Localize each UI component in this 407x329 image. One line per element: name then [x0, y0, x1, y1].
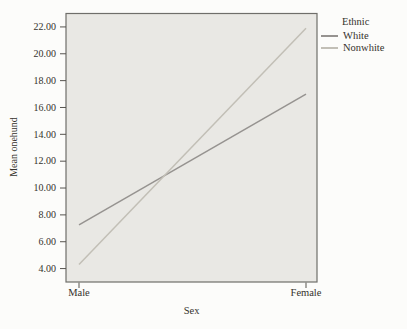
y-tick-label: 22.00: [34, 21, 57, 32]
y-tick-label: 12.00: [34, 155, 57, 166]
chart-figure: 4.006.008.0010.0012.0014.0016.0018.0020.…: [0, 0, 407, 329]
legend-label-nonwhite: Nonwhite: [343, 42, 384, 54]
y-tick-label: 16.00: [34, 102, 57, 113]
y-tick-label: 8.00: [39, 209, 57, 220]
y-tick-label: 14.00: [34, 129, 57, 140]
y-tick-label: 6.00: [39, 236, 57, 247]
x-axis-title: Sex: [141, 304, 242, 317]
x-category-label-male: Male: [53, 287, 105, 299]
legend: Ethnic White Nonwhite: [320, 15, 384, 54]
legend-item-nonwhite: Nonwhite: [320, 42, 384, 54]
y-tick-label: 20.00: [34, 48, 57, 59]
nonwhite-series-swatch: [321, 47, 338, 49]
white-series-swatch: [321, 35, 338, 37]
y-tick-label: 10.00: [34, 182, 57, 193]
y-axis-title: Mean onehund: [7, 86, 21, 208]
x-category-label-female: Female: [280, 287, 332, 299]
legend-item-white: White: [320, 30, 384, 42]
y-tick-label: 18.00: [34, 75, 57, 86]
legend-label-white: White: [343, 30, 369, 42]
y-tick-label: 4.00: [39, 263, 57, 274]
legend-title: Ethnic: [320, 15, 384, 28]
